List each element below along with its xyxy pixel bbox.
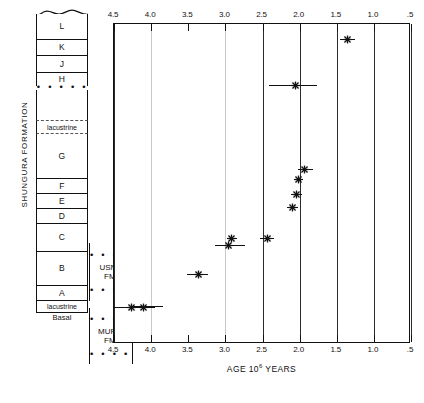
tick-bottom-1-5 bbox=[337, 335, 338, 342]
strat-unit-J: J bbox=[36, 56, 88, 73]
tick-bottom-4-5 bbox=[114, 335, 115, 342]
star-marker-7 bbox=[263, 234, 272, 243]
bottom-axis-label-4p5: 4.5 bbox=[100, 345, 126, 354]
gridline-1 bbox=[374, 24, 375, 342]
tick-bottom-2 bbox=[300, 335, 301, 342]
tick-bottom-1 bbox=[374, 335, 375, 342]
strat-unit-G-label: G bbox=[59, 152, 66, 161]
axis-bottom-tick-labels: 4.54.03.53.02.52.01.51.0.5 bbox=[113, 345, 410, 357]
tick-top-3 bbox=[225, 24, 226, 31]
strat-unit-A: A bbox=[36, 286, 88, 301]
bottom-axis-label-p5: .5 bbox=[397, 345, 423, 354]
strat-unit-K: K bbox=[36, 40, 88, 56]
strat-unit-J-label: J bbox=[60, 60, 64, 69]
star-marker-3 bbox=[300, 165, 309, 174]
bottom-axis-label-2p5: 2.5 bbox=[249, 345, 275, 354]
gridline-2-5 bbox=[263, 24, 264, 342]
tick-bottom-0-5 bbox=[411, 335, 412, 342]
strat-unit-L-label: L bbox=[60, 22, 65, 31]
gridline-3 bbox=[225, 24, 226, 342]
strat-unit-A-label: A bbox=[59, 289, 65, 298]
strat-unit-L: L bbox=[36, 14, 88, 40]
x-axis-caption: AGE 106 YEARS bbox=[113, 363, 410, 374]
bottom-axis-label-2p0: 2.0 bbox=[286, 345, 312, 354]
strat-unit-K-label: K bbox=[59, 43, 65, 52]
strat-unit-D-label: D bbox=[59, 212, 65, 221]
stratigraphic-column: L K J H • • • • • • • • • bbox=[36, 14, 88, 310]
tick-top-4-5 bbox=[114, 24, 115, 31]
tick-top-2-5 bbox=[263, 24, 264, 31]
tick-bottom-4 bbox=[151, 335, 152, 342]
axis-top-tick-labels: 4.54.03.53.02.52.01.51.0.5 bbox=[113, 10, 410, 22]
strat-unit-E: E bbox=[36, 194, 88, 209]
top-axis-label-4p5: 4.5 bbox=[100, 10, 126, 19]
bottom-axis-label-4p0: 4.0 bbox=[137, 345, 163, 354]
strat-unit-F-label: F bbox=[59, 182, 64, 191]
bottom-axis-label-1p0: 1.0 bbox=[360, 345, 386, 354]
tick-top-4 bbox=[151, 24, 152, 31]
tick-top-0-5 bbox=[411, 24, 412, 31]
top-axis-label-1p5: 1.5 bbox=[323, 10, 349, 19]
star-marker-1 bbox=[343, 35, 352, 44]
bottom-axis-label-1p5: 1.5 bbox=[323, 345, 349, 354]
tick-top-1 bbox=[374, 24, 375, 31]
star-marker-2 bbox=[291, 81, 300, 90]
gridline-4 bbox=[151, 24, 152, 342]
tick-top-2 bbox=[300, 24, 301, 31]
strat-unit-F: F bbox=[36, 179, 88, 194]
radiometric-age-figure: SHUNGURA FORMATION L K J H • • • bbox=[0, 0, 424, 403]
bottom-axis-label-3p0: 3.0 bbox=[211, 345, 237, 354]
strat-unit-lacustrine-lower: lacustrine bbox=[36, 301, 88, 313]
strat-unit-H-label: H bbox=[59, 75, 65, 84]
strat-unit-C-label: C bbox=[59, 233, 65, 242]
star-marker-12 bbox=[139, 303, 148, 312]
x-axis-caption-main: AGE 10 bbox=[227, 364, 259, 374]
strat-unit-B: B bbox=[36, 252, 88, 286]
tick-bottom-3 bbox=[225, 335, 226, 342]
strat-unit-lacustrine-upper: lacustrine bbox=[36, 120, 88, 134]
top-axis-label-2p5: 2.5 bbox=[249, 10, 275, 19]
gridline-0-5 bbox=[411, 24, 412, 342]
mursi-leader-line bbox=[133, 306, 163, 307]
top-axis-label-2p0: 2.0 bbox=[286, 10, 312, 19]
strat-unit-B-label: B bbox=[59, 264, 65, 273]
strat-unit-C: C bbox=[36, 224, 88, 252]
bottom-axis-label-3p5: 3.5 bbox=[174, 345, 200, 354]
gridline-4-5 bbox=[114, 24, 115, 342]
top-axis-label-3p5: 3.5 bbox=[174, 10, 200, 19]
strat-unit-G: G bbox=[36, 134, 88, 179]
strat-unit-unnamed-upper bbox=[36, 90, 88, 120]
star-marker-5 bbox=[292, 190, 301, 199]
tick-bottom-3-5 bbox=[188, 335, 189, 342]
star-marker-6 bbox=[288, 203, 297, 212]
top-axis-label-p5: .5 bbox=[397, 10, 423, 19]
strat-unit-E-label: E bbox=[59, 197, 65, 206]
tick-top-1-5 bbox=[337, 24, 338, 31]
tick-top-3-5 bbox=[188, 24, 189, 31]
gridline-1-5 bbox=[337, 24, 338, 342]
x-axis-caption-tail: YEARS bbox=[263, 364, 296, 374]
top-axis-label-1p0: 1.0 bbox=[360, 10, 386, 19]
basal-unit-label: Basal bbox=[36, 313, 88, 322]
strat-unit-lacustrine-upper-label: lacustrine bbox=[47, 124, 77, 131]
age-scatter-plot bbox=[113, 23, 410, 343]
star-marker-4 bbox=[294, 175, 303, 184]
top-axis-label-4p0: 4.0 bbox=[137, 10, 163, 19]
star-marker-10 bbox=[194, 270, 203, 279]
tick-bottom-2-5 bbox=[263, 335, 264, 342]
strat-unit-D: D bbox=[36, 209, 88, 224]
star-marker-9 bbox=[224, 241, 233, 250]
top-axis-label-3p0: 3.0 bbox=[211, 10, 237, 19]
strat-unit-lacustrine-lower-label: lacustrine bbox=[47, 303, 77, 310]
formation-name-label: SHUNGURA FORMATION bbox=[20, 85, 29, 225]
